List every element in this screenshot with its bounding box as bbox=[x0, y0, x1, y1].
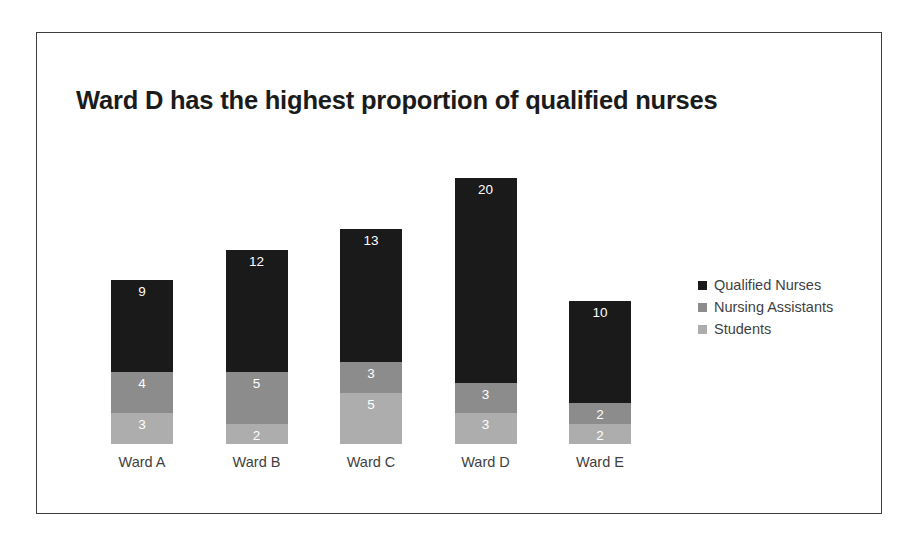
bar-segment: 3 bbox=[111, 413, 173, 444]
bar-segment: 3 bbox=[340, 362, 402, 393]
bar-value-label: 5 bbox=[226, 377, 288, 391]
legend-swatch-icon bbox=[698, 325, 707, 334]
legend-item-qualified-nurses[interactable]: Qualified Nurses bbox=[698, 274, 878, 296]
legend-item-label: Students bbox=[714, 321, 771, 337]
bar-value-label: 5 bbox=[340, 398, 402, 412]
bar-segment: 13 bbox=[340, 229, 402, 362]
category-label: Ward B bbox=[202, 454, 312, 470]
bar-value-label: 9 bbox=[111, 285, 173, 299]
bar-value-label: 3 bbox=[455, 418, 517, 432]
category-label: Ward E bbox=[545, 454, 655, 470]
bar-segment: 2 bbox=[569, 403, 631, 423]
bar-segment: 20 bbox=[455, 178, 517, 382]
bar-segment: 3 bbox=[455, 413, 517, 444]
bar-value-label: 13 bbox=[340, 234, 402, 248]
bar-value-label: 2 bbox=[569, 429, 631, 443]
legend-item-label: Qualified Nurses bbox=[714, 277, 821, 293]
legend-item-students[interactable]: Students bbox=[698, 318, 878, 340]
legend-swatch-icon bbox=[698, 281, 707, 290]
bar-segment: 4 bbox=[111, 372, 173, 413]
bar-segment: 10 bbox=[569, 301, 631, 403]
chart-legend: Qualified Nurses Nursing Assistants Stud… bbox=[698, 274, 878, 340]
bar-value-label: 4 bbox=[111, 377, 173, 391]
bar-value-label: 3 bbox=[340, 367, 402, 381]
bar-value-label: 20 bbox=[455, 183, 517, 197]
bar-segment: 9 bbox=[111, 280, 173, 372]
category-label: Ward A bbox=[87, 454, 197, 470]
plot-area: 349Ward A2512Ward B5313Ward C3320Ward D2… bbox=[36, 32, 882, 514]
bar-value-label: 3 bbox=[111, 418, 173, 432]
bar-segment: 2 bbox=[569, 424, 631, 444]
bar-value-label: 2 bbox=[569, 408, 631, 422]
bar-value-label: 12 bbox=[226, 255, 288, 269]
bar-segment: 12 bbox=[226, 250, 288, 373]
category-label: Ward D bbox=[431, 454, 541, 470]
legend-item-label: Nursing Assistants bbox=[714, 299, 833, 315]
bar-segment: 5 bbox=[226, 372, 288, 423]
bar-segment: 3 bbox=[455, 383, 517, 414]
bar-value-label: 10 bbox=[569, 306, 631, 320]
slide-canvas: Ward D has the highest proportion of qua… bbox=[0, 0, 916, 544]
bar-value-label: 2 bbox=[226, 429, 288, 443]
bar-value-label: 3 bbox=[455, 388, 517, 402]
bar-segment: 5 bbox=[340, 393, 402, 444]
category-label: Ward C bbox=[316, 454, 426, 470]
legend-swatch-icon bbox=[698, 303, 707, 312]
legend-item-nursing-assistants[interactable]: Nursing Assistants bbox=[698, 296, 878, 318]
bar-segment: 2 bbox=[226, 424, 288, 444]
